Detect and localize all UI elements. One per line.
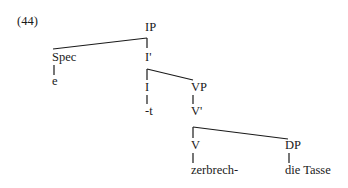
edge-vbar-dp <box>193 127 288 139</box>
node-v-leaf: zerbrech- <box>191 164 238 177</box>
syntax-tree-diagram: (44) IP Spec I' e I VP -t V' V DP zerbre… <box>0 0 348 188</box>
node-ip: IP <box>145 21 156 34</box>
node-v: V <box>191 139 200 152</box>
node-spec-leaf: e <box>52 75 58 88</box>
node-spec: Spec <box>52 51 76 64</box>
node-dp: DP <box>285 139 301 152</box>
node-i-leaf: -t <box>145 105 153 118</box>
tree-edges <box>0 0 348 188</box>
edge-ip-spec <box>53 38 147 49</box>
node-dp-leaf: die Tasse <box>285 164 331 177</box>
node-i-bar: I' <box>145 51 151 64</box>
edge-ibar-vp <box>147 69 193 80</box>
node-i: I <box>145 81 149 94</box>
node-vp: VP <box>191 81 207 94</box>
example-number: (44) <box>17 15 38 28</box>
node-v-bar: V' <box>191 105 202 118</box>
